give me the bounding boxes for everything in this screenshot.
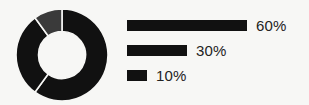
legend-bar (127, 45, 187, 56)
legend-row: 60% (127, 19, 287, 31)
donut-slice-group (16, 9, 108, 101)
legend-value-label: 30% (196, 43, 227, 58)
legend-row: 10% (127, 69, 187, 81)
percentage-infographic: 60% 30% 10% (0, 0, 309, 105)
legend-row: 30% (127, 44, 227, 56)
donut-chart-svg (16, 9, 108, 101)
legend-value-label: 10% (156, 68, 187, 83)
legend-bar (127, 70, 147, 81)
legend-bar (127, 20, 247, 31)
bar-legend: 60% 30% 10% (127, 14, 305, 94)
donut-chart (16, 9, 108, 101)
legend-value-label: 60% (256, 18, 287, 33)
